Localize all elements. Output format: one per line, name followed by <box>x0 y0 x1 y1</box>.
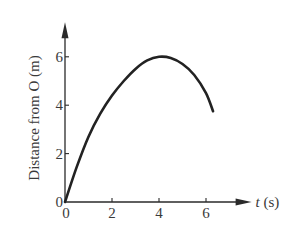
x-tick-label: 6 <box>202 205 210 221</box>
x-axis-label-unit: (s) <box>260 194 280 211</box>
x-tick-label: 0 <box>62 205 70 221</box>
y-axis-arrow-icon <box>62 22 69 38</box>
y-tick-label: 0 <box>56 194 64 210</box>
chart: 0246 0246 Distance from O (m) t (s) <box>0 0 301 235</box>
x-tick-label: 2 <box>108 205 116 221</box>
y-tick-label: 2 <box>56 146 64 162</box>
x-tick-label: 4 <box>155 205 163 221</box>
axes <box>62 22 252 205</box>
y-tick-label: 4 <box>56 97 64 113</box>
y-axis-label: Distance from O (m) <box>26 55 43 180</box>
x-axis-label: t (s) <box>256 194 280 211</box>
y-ticks: 0246 <box>56 49 70 210</box>
x-axis-arrow-icon <box>236 199 252 206</box>
series-line-distance <box>65 57 213 202</box>
y-tick-label: 6 <box>56 49 64 65</box>
